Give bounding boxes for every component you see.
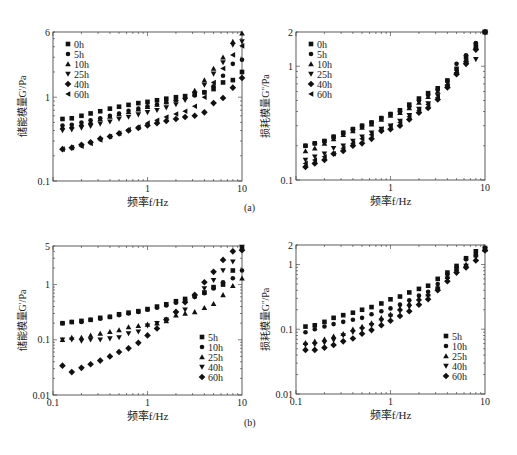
y-tick-label: 0.1 [38, 176, 51, 187]
diamond-marker [199, 374, 206, 381]
circle-marker [351, 317, 356, 322]
square-marker [331, 316, 336, 321]
triangle-down-marker [88, 337, 94, 342]
panel-label-b: (b) [244, 417, 256, 428]
triangle-down-marker [443, 364, 449, 369]
diamond-marker [230, 84, 237, 91]
triangle-left-marker [65, 91, 70, 97]
series-40h [302, 29, 488, 171]
x-tick-label: 10 [237, 397, 247, 408]
triangle-up-marker [65, 61, 71, 66]
triangle-down-marker [65, 72, 71, 77]
triangle-left-marker [182, 108, 187, 114]
series-10h [303, 246, 487, 335]
square-marker [98, 109, 103, 114]
square-marker [69, 116, 74, 121]
circle-marker [211, 286, 216, 291]
diamond-marker [473, 257, 480, 264]
diamond-marker [230, 248, 237, 255]
circle-marker [454, 62, 459, 67]
circle-marker [369, 312, 374, 317]
y-tick-label: 1 [45, 279, 50, 290]
diamond-marker [173, 309, 180, 316]
triangle-down-marker [154, 108, 160, 113]
y-tick-label: 0.01 [276, 389, 294, 400]
legend: 0h5h10h25h40h60h [308, 39, 332, 100]
y-tick-label: 1 [45, 92, 50, 103]
x-axis-label: 频率f/Hz [370, 194, 412, 207]
triangle-down-marker [473, 57, 479, 62]
triangle-up-marker [88, 333, 94, 338]
x-tick-label: 10 [480, 182, 490, 193]
diamond-marker [163, 317, 170, 324]
circle-marker [303, 330, 308, 335]
triangle-up-marker [126, 324, 132, 329]
diamond-marker [302, 347, 309, 354]
circle-marker [379, 309, 384, 314]
triangle-down-marker [182, 307, 188, 312]
diamond-marker [135, 340, 142, 347]
square-marker [79, 113, 84, 118]
circle-marker [341, 320, 346, 325]
triangle-down-marker [116, 117, 122, 122]
diamond-marker [340, 338, 347, 345]
x-axis-label: 频率f/Hz [370, 408, 412, 421]
figure-canvas: 1100.116频率f/Hz储能模量G'/Pa0h5h10h25h40h60h1… [0, 0, 517, 455]
triangle-left-marker [308, 91, 313, 97]
circle-marker [322, 324, 327, 329]
triangle-up-marker [312, 145, 318, 150]
square-marker [388, 297, 393, 302]
circle-marker [312, 141, 317, 146]
triangle-down-marker [145, 110, 151, 115]
triangle-down-marker [126, 331, 132, 336]
triangle-up-marker [220, 54, 226, 59]
circle-marker [444, 344, 449, 349]
triangle-up-marker [239, 275, 245, 280]
diamond-marker [359, 331, 366, 338]
diamond-marker [87, 361, 94, 368]
triangle-up-marker [230, 283, 236, 288]
x-tick-label: 1 [388, 182, 393, 193]
diamond-marker [154, 325, 161, 332]
legend-label: 60h [452, 371, 467, 382]
diamond-marker [397, 313, 404, 320]
diamond-marker [125, 345, 132, 352]
square-marker [303, 324, 308, 329]
circle-marker [117, 313, 122, 318]
square-marker [60, 117, 65, 122]
chart-a-left: 1100.116频率f/Hz储能模量G'/Pa0h5h10h25h40h60h [16, 27, 247, 209]
y-tick-label: 0.01 [33, 390, 51, 401]
circle-marker [79, 320, 84, 325]
series-5h [303, 246, 487, 329]
square-marker [117, 104, 122, 109]
triangle-up-marker [443, 353, 449, 358]
diamond-marker [378, 322, 385, 329]
diamond-marker [116, 349, 123, 356]
legend: 5h10h25h40h60h [199, 332, 223, 383]
diamond-marker [239, 75, 246, 82]
triangle-down-marker [126, 115, 132, 120]
y-axis-label: 储能模量G'/Pa [16, 289, 28, 351]
triangle-down-marker [211, 72, 217, 77]
diamond-marker [107, 353, 114, 360]
square-marker [407, 290, 412, 295]
triangle-up-marker [97, 331, 103, 336]
diamond-marker [443, 373, 450, 380]
square-marker [417, 287, 422, 292]
diamond-marker [434, 287, 441, 294]
circle-marker [145, 307, 150, 312]
diamond-marker [201, 109, 208, 116]
diamond-marker [453, 269, 460, 276]
triangle-up-marker [211, 301, 217, 306]
y-axis-label: 损耗模量G''/Pa [259, 287, 271, 351]
diamond-marker [425, 296, 432, 303]
square-marker [66, 42, 71, 47]
square-marker [426, 283, 431, 288]
chart-b-left: 0.11100.010.115频率f/Hz储能模量G'/Pa5h10h25h40… [16, 241, 247, 423]
triangle-down-marker [97, 122, 103, 127]
triangle-down-marker [60, 128, 66, 133]
circle-marker [240, 57, 245, 62]
x-axis-label: 频率f/Hz [127, 409, 169, 422]
triangle-up-marker [308, 61, 314, 66]
x-tick-label: 1 [145, 183, 150, 194]
